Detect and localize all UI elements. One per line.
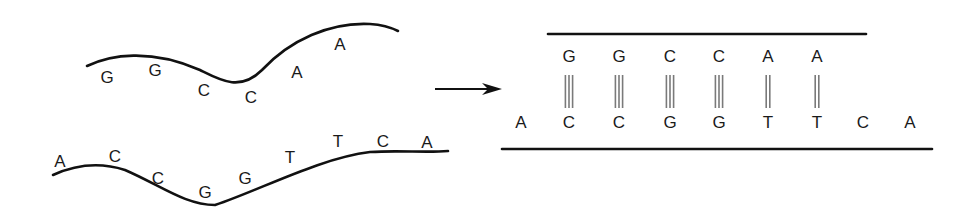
base-label: G (612, 47, 625, 66)
base-label: T (285, 148, 295, 167)
base-label: C (152, 169, 164, 188)
base-label: G (198, 183, 211, 202)
base-label: G (712, 113, 725, 132)
base-label: A (291, 63, 303, 82)
base-label: T (763, 113, 773, 132)
base-label: C (857, 113, 869, 132)
triple-hydrogen-bond (565, 75, 572, 108)
upper-strand-bases: GGCCAA (100, 35, 346, 107)
double-hydrogen-bond (815, 75, 819, 108)
base-label: C (198, 81, 210, 100)
base-label: C (245, 88, 257, 107)
base-label: A (762, 47, 774, 66)
diagram-canvas: GGCCAA ACCGGTTCA GGCCAA ACCGGTTCA (0, 0, 977, 217)
base-label: A (54, 152, 66, 171)
base-label: G (562, 47, 575, 66)
base-label: C (713, 47, 725, 66)
single-strands-panel: GGCCAA ACCGGTTCA (53, 24, 448, 205)
triple-hydrogen-bond (615, 75, 622, 108)
base-label: C (563, 113, 575, 132)
base-label: C (109, 147, 121, 166)
triple-hydrogen-bond (666, 75, 673, 108)
dna-annealing-diagram: GGCCAA ACCGGTTCA GGCCAA ACCGGTTCA (0, 0, 977, 217)
base-label: C (664, 47, 676, 66)
duplex-panel: GGCCAA ACCGGTTCA (502, 34, 932, 149)
base-label: C (613, 113, 625, 132)
upper-single-strand (87, 24, 398, 83)
base-label: A (515, 113, 527, 132)
triple-hydrogen-bond (715, 75, 722, 108)
base-label: T (812, 113, 822, 132)
right-arrow-icon (435, 83, 502, 95)
base-label: A (904, 113, 916, 132)
base-label: A (334, 35, 346, 54)
base-label: T (333, 132, 343, 151)
base-label: G (238, 169, 251, 188)
base-label: A (421, 133, 433, 152)
base-label: C (377, 132, 389, 151)
base-label: A (811, 47, 823, 66)
double-hydrogen-bond (766, 75, 770, 108)
hydrogen-bonds (565, 75, 818, 108)
base-label: G (663, 113, 676, 132)
base-label: G (100, 68, 113, 87)
duplex-top-bases: GGCCAA (562, 47, 823, 66)
duplex-bottom-bases: ACCGGTTCA (515, 113, 916, 132)
base-label: G (148, 61, 161, 80)
